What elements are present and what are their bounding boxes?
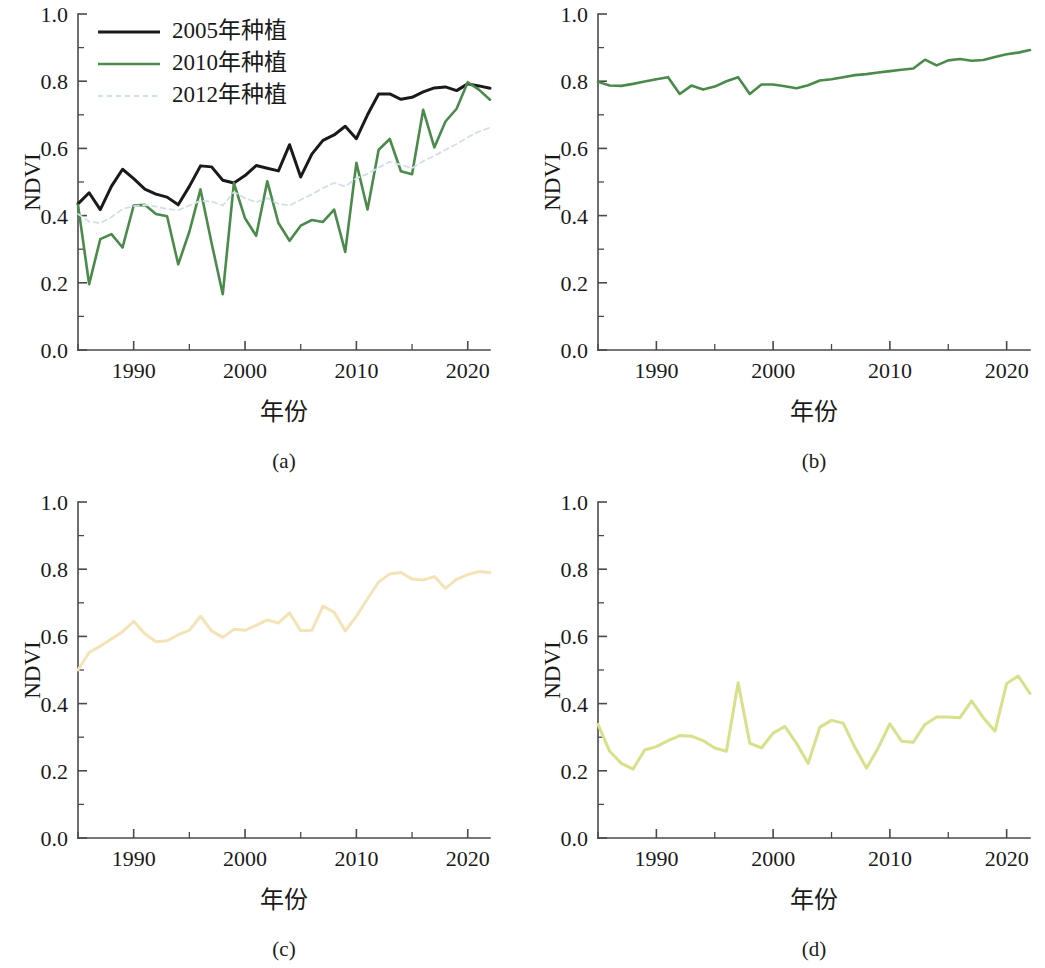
y-ticks-b: 0.00.20.40.60.81.0 (561, 2, 608, 363)
chart-panel-a: 0.00.20.40.60.81.01990200020102020NDVI年份… (0, 0, 520, 480)
x-tick-label: 1990 (634, 358, 678, 383)
chart-panel-d: 0.00.20.40.60.81.01990200020102020NDVI年份… (520, 480, 1045, 968)
y-axis-title: NDVI (20, 641, 45, 699)
y-ticks-c: 0.00.20.40.60.81.0 (41, 490, 88, 851)
x-tick-label: 2010 (334, 358, 378, 383)
y-tick-label: 0.8 (561, 69, 589, 94)
x-tick-label: 2020 (985, 846, 1029, 871)
x-tick-label: 2020 (446, 846, 490, 871)
y-tick-label: 1.0 (41, 2, 69, 27)
series-line-a-2 (78, 128, 490, 223)
legend-label-2: 2012年种植 (172, 82, 287, 107)
x-tick-label: 2010 (868, 846, 912, 871)
panel-caption-c: (c) (272, 937, 295, 961)
y-tick-label: 1.0 (561, 490, 589, 515)
panel-caption-b: (b) (802, 449, 827, 473)
y-ticks-a: 0.00.20.40.60.81.0 (41, 2, 88, 363)
y-axis-title: NDVI (540, 641, 565, 699)
axes-c (78, 502, 490, 838)
y-tick-label: 0.8 (561, 557, 589, 582)
y-axis-title: NDVI (20, 153, 45, 211)
series-line-c-0 (78, 572, 490, 670)
panel-caption-a: (a) (272, 449, 295, 473)
x-ticks-d: 1990200020102020 (598, 829, 1029, 871)
x-tick-label: 1990 (112, 358, 156, 383)
x-tick-label: 2000 (751, 846, 795, 871)
y-tick-label: 0.0 (41, 826, 69, 851)
x-tick-label: 2010 (868, 358, 912, 383)
series-group-a (78, 82, 490, 294)
chart-svg-d: 0.00.20.40.60.81.01990200020102020NDVI年份… (520, 480, 1045, 968)
series-group-b (598, 50, 1030, 94)
chart-panel-c: 0.00.20.40.60.81.01990200020102020NDVI年份… (0, 480, 520, 968)
chart-svg-c: 0.00.20.40.60.81.01990200020102020NDVI年份… (0, 480, 520, 968)
x-axis-title: 年份 (260, 399, 308, 425)
legend-label-1: 2010年种植 (172, 50, 287, 75)
axes-d (598, 502, 1030, 838)
y-tick-label: 0.8 (41, 69, 69, 94)
ndvi-four-panel-figure: 0.00.20.40.60.81.01990200020102020NDVI年份… (0, 0, 1045, 968)
chart-panel-b: 0.00.20.40.60.81.01990200020102020NDVI年份… (520, 0, 1045, 480)
x-ticks-b: 1990200020102020 (598, 341, 1029, 383)
chart-svg-b: 0.00.20.40.60.81.01990200020102020NDVI年份… (520, 0, 1045, 480)
axes-b (598, 14, 1030, 350)
chart-svg-a: 0.00.20.40.60.81.01990200020102020NDVI年份… (0, 0, 520, 480)
x-axis-title: 年份 (260, 887, 308, 913)
y-tick-label: 1.0 (561, 2, 589, 27)
y-tick-label: 0.0 (561, 826, 589, 851)
y-ticks-d: 0.00.20.40.60.81.0 (561, 490, 608, 851)
y-tick-label: 0.2 (41, 271, 69, 296)
y-tick-label: 0.0 (561, 338, 589, 363)
panel-caption-d: (d) (802, 937, 827, 961)
x-ticks-c: 1990200020102020 (78, 829, 490, 871)
legend-label-0: 2005年种植 (172, 18, 287, 43)
x-tick-label: 2020 (446, 358, 490, 383)
y-tick-label: 0.0 (41, 338, 69, 363)
series-line-d-0 (598, 676, 1030, 769)
y-axis-title: NDVI (540, 153, 565, 211)
x-axis-title: 年份 (790, 887, 838, 913)
y-tick-label: 0.2 (561, 271, 589, 296)
y-tick-label: 0.2 (561, 759, 589, 784)
y-tick-label: 0.8 (41, 557, 69, 582)
y-tick-label: 1.0 (41, 490, 69, 515)
series-group-c (78, 572, 490, 670)
series-line-b-0 (598, 50, 1030, 94)
x-axis-title: 年份 (790, 399, 838, 425)
x-tick-label: 1990 (112, 846, 156, 871)
legend-a: 2005年种植2010年种植2012年种植 (98, 18, 287, 107)
x-tick-label: 2010 (334, 846, 378, 871)
x-tick-label: 2000 (751, 358, 795, 383)
x-tick-label: 2000 (223, 846, 267, 871)
series-line-a-1 (78, 82, 490, 294)
y-tick-label: 0.2 (41, 759, 69, 784)
x-tick-label: 2000 (223, 358, 267, 383)
series-group-d (598, 676, 1030, 769)
x-ticks-a: 1990200020102020 (78, 341, 490, 383)
x-tick-label: 1990 (634, 846, 678, 871)
x-tick-label: 2020 (985, 358, 1029, 383)
